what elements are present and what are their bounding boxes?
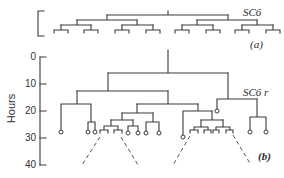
- panel-b-tree-label: SC6 r: [243, 87, 268, 98]
- panel-a-label: (a): [250, 39, 263, 50]
- y-tick-0: 0: [20, 52, 36, 62]
- panel-b-y-axis: [40, 57, 46, 165]
- y-tick-20: 20: [20, 106, 36, 116]
- y-axis-title: Hours: [6, 94, 17, 123]
- panel-b-label: (b): [258, 151, 271, 162]
- panel-a-bracket: [38, 11, 44, 36]
- y-tick-30: 30: [20, 133, 36, 143]
- lineage-tree-figure: [0, 0, 284, 178]
- y-tick-40: 40: [20, 160, 36, 170]
- panel-b-tree: [59, 50, 268, 165]
- y-tick-10: 10: [20, 79, 36, 89]
- terminal-cell-markers: [59, 109, 268, 139]
- panel-a-tree-label: SC6: [243, 7, 261, 18]
- expansion-cone-lines: [82, 135, 251, 165]
